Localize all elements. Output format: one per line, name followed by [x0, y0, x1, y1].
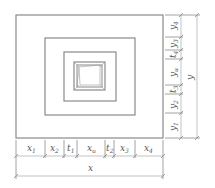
- label-x1: x1: [27, 143, 36, 154]
- core-distortion-lines: [74, 62, 105, 90]
- label-yu: yu: [168, 68, 179, 78]
- dimension-diagram: x1 x2 t1 xu t2 x3 x4 x: [0, 0, 215, 188]
- label-x-total: x: [88, 163, 93, 173]
- label-t4: t4: [168, 50, 179, 58]
- second-rectangle: [45, 38, 135, 115]
- x-labels: x1 x2 t1 xu t2 x3 x4 x: [27, 143, 153, 173]
- label-y2: y2: [168, 100, 179, 110]
- outer-rectangle: [16, 15, 163, 138]
- label-y1: y1: [168, 122, 179, 132]
- label-x3: x3: [120, 143, 129, 154]
- label-y3: y3: [168, 39, 179, 49]
- core-inner-rectangle: [77, 65, 102, 87]
- label-x4: x4: [144, 143, 153, 154]
- third-rectangle: [64, 52, 116, 101]
- label-t3: t3: [168, 85, 179, 93]
- diagram-svg: x1 x2 t1 xu t2 x3 x4 x: [0, 0, 215, 188]
- label-t1: t1: [67, 143, 74, 154]
- label-t2: t2: [106, 143, 114, 154]
- label-y-total: y: [185, 74, 195, 81]
- label-xu: xu: [87, 143, 96, 154]
- label-y4: y4: [168, 21, 179, 31]
- y-labels: y4 y3 t4 yu t3 y2 y1 y: [168, 21, 195, 132]
- label-x2: x2: [50, 143, 59, 154]
